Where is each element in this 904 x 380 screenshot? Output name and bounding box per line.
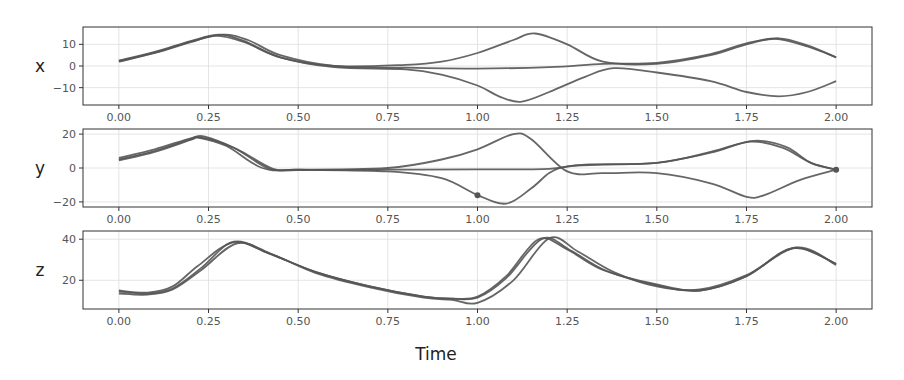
x-tick-label: 0.75 (376, 111, 401, 124)
y-tick-label: −10 (53, 82, 76, 95)
x-tick-label: 1.00 (465, 315, 490, 328)
x-tick-label: 1.75 (734, 315, 759, 328)
endpoint-marker (475, 192, 481, 198)
x-tick-label: 0.00 (107, 111, 132, 124)
x-tick-label: 1.50 (645, 213, 670, 226)
endpoint-marker (833, 167, 839, 173)
trajectory-chart: 0.000.250.500.751.001.251.501.752.00100−… (0, 0, 904, 380)
x-tick-label: 1.00 (465, 213, 490, 226)
x-tick-label: 1.50 (645, 315, 670, 328)
x-tick-label: 0.50 (286, 315, 311, 328)
y-tick-label: 20 (62, 128, 76, 141)
x-tick-label: 1.75 (734, 213, 759, 226)
x-tick-label: 1.25 (555, 315, 580, 328)
x-tick-label: 0.50 (286, 213, 311, 226)
x-tick-label: 1.50 (645, 111, 670, 124)
series-lines (119, 133, 839, 203)
x-tick-label: 2.00 (824, 213, 849, 226)
y-tick-label: 20 (62, 274, 76, 287)
panel-z: 0.000.250.500.751.001.251.501.752.004020… (36, 231, 872, 328)
x-tick-label: 1.25 (555, 213, 580, 226)
x-tick-label: 0.00 (107, 315, 132, 328)
x-axis-label: Time (414, 344, 457, 364)
y-tick-label: 0 (69, 162, 76, 175)
x-tick-label: 0.25 (196, 315, 221, 328)
panel-x: 0.000.250.500.751.001.251.501.752.00100−… (35, 27, 872, 124)
y-tick-label: 0 (69, 60, 76, 73)
x-tick-label: 0.50 (286, 111, 311, 124)
x-tick-label: 1.75 (734, 111, 759, 124)
x-tick-label: 1.25 (555, 111, 580, 124)
y-axis-label: y (35, 158, 45, 178)
y-tick-label: 40 (62, 233, 76, 246)
y-tick-label: −20 (53, 196, 76, 209)
y-axis-label: x (35, 56, 45, 76)
y-axis-label: z (36, 260, 45, 280)
x-tick-label: 0.25 (196, 111, 221, 124)
x-tick-label: 2.00 (824, 315, 849, 328)
panel-y: 0.000.250.500.751.001.251.501.752.00200−… (35, 128, 872, 226)
x-tick-label: 0.75 (376, 213, 401, 226)
x-tick-label: 0.00 (107, 213, 132, 226)
y-tick-label: 10 (62, 38, 76, 51)
x-tick-label: 0.75 (376, 315, 401, 328)
x-tick-label: 1.00 (465, 111, 490, 124)
x-tick-label: 0.25 (196, 213, 221, 226)
x-tick-label: 2.00 (824, 111, 849, 124)
